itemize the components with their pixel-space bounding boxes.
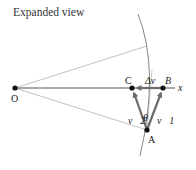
label-O: O bbox=[11, 93, 18, 104]
label-delta-v: Δv⃗ bbox=[144, 75, 163, 86]
label-C: C bbox=[125, 75, 132, 86]
point-A bbox=[144, 127, 149, 132]
point-O bbox=[12, 85, 17, 90]
point-B bbox=[160, 85, 165, 90]
label-x-axis: x bbox=[177, 82, 183, 93]
velocity-diagram: O C B A x Δv⃗ v⃗2 v⃗1 θ bbox=[0, 0, 196, 170]
label-A: A bbox=[148, 134, 156, 145]
label-theta: θ bbox=[143, 112, 148, 123]
label-B: B bbox=[165, 75, 171, 86]
label-v1: v⃗1 bbox=[157, 115, 174, 126]
point-C bbox=[129, 85, 134, 90]
